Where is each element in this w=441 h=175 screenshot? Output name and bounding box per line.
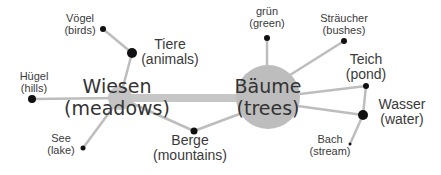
edge-baeume-straeucher — [290, 41, 344, 75]
node-en: (lake) — [47, 144, 75, 156]
edge-baeume-teich — [300, 86, 366, 94]
node-de: Bach — [310, 133, 351, 145]
node-label-gruen: grün (green) — [249, 5, 284, 29]
node-de: Vögel — [64, 12, 95, 24]
dot-voegel — [100, 26, 106, 32]
node-de: See — [47, 132, 75, 144]
node-de: Hügel — [20, 70, 49, 82]
node-en: (hills) — [20, 82, 49, 94]
node-label-teich: Teich (pond) — [346, 52, 386, 83]
node-label-tiere: Tiere (animals) — [141, 37, 199, 68]
dot-teich — [363, 83, 369, 89]
dot-tiere — [127, 48, 137, 58]
dot-see — [81, 146, 86, 151]
dot-huegel — [28, 95, 36, 103]
hub-en: (meadows) — [64, 98, 170, 120]
node-en: (birds) — [64, 24, 95, 36]
node-de: grün — [249, 5, 284, 17]
node-en: (animals) — [141, 52, 199, 67]
dot-straeucher — [341, 38, 347, 44]
node-en: (green) — [249, 17, 284, 29]
node-de: Wasser — [379, 97, 426, 112]
node-label-see: See (lake) — [47, 132, 75, 156]
node-label-bach: Bach (stream) — [310, 133, 351, 157]
hub-en: (trees) — [235, 98, 302, 120]
edge-baeume-wasser — [298, 106, 363, 115]
node-label-voegel: Vögel (birds) — [64, 12, 95, 36]
node-label-wasser: Wasser (water) — [379, 97, 426, 128]
hub-label-baeume: Bäume (trees) — [235, 76, 302, 120]
node-en: (mountains) — [153, 148, 227, 163]
hub-de: Bäume — [235, 76, 302, 98]
node-de: Berge — [153, 133, 227, 148]
node-en: (bushes) — [320, 24, 368, 36]
node-de: Tiere — [141, 37, 199, 52]
dot-gruen — [264, 35, 270, 41]
node-en: (pond) — [346, 67, 386, 82]
node-label-straeucher: Sträucher (bushes) — [320, 12, 368, 36]
hub-label-wiesen: Wiesen (meadows) — [64, 76, 170, 120]
node-en: (water) — [379, 112, 426, 127]
edge-tiere-voegel — [103, 29, 132, 53]
node-en: (stream) — [310, 145, 351, 157]
node-label-berge: Berge (mountains) — [153, 133, 227, 164]
node-de: Teich — [346, 52, 386, 67]
node-label-huegel: Hügel (hills) — [20, 70, 49, 94]
dot-wasser — [358, 110, 368, 120]
node-de: Sträucher — [320, 12, 368, 24]
hub-de: Wiesen — [64, 76, 170, 98]
